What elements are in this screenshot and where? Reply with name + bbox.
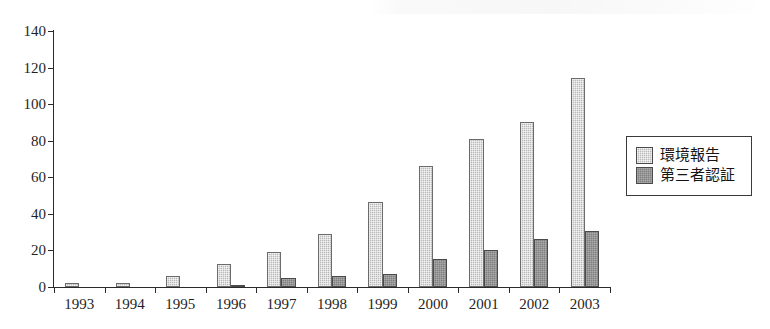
legend-swatch-icon-0 — [636, 147, 653, 164]
x-axis-label-1994: 1994 — [115, 297, 145, 312]
y-axis-tick-label: 100 — [24, 97, 47, 112]
y-axis-tick-label: 80 — [31, 133, 46, 148]
chart-legend: 環境報告 第三者認証 — [626, 136, 752, 196]
x-axis-tick-mark — [357, 287, 358, 293]
bar-2002-series-0 — [520, 122, 534, 287]
x-axis-label-1999: 1999 — [368, 297, 398, 312]
x-axis-tick-mark — [54, 287, 55, 293]
plot-area: 0204060801001201401993199419951996199719… — [54, 31, 610, 287]
y-axis-tick-label: 20 — [31, 243, 46, 258]
bar-2001-series-1 — [484, 250, 498, 287]
bar-1998-series-1 — [332, 276, 346, 287]
y-axis-tick-label: 40 — [31, 206, 46, 221]
y-axis-tick-label: 0 — [39, 280, 47, 295]
x-axis-label-2001: 2001 — [469, 297, 499, 312]
bar-1993-series-0 — [65, 283, 79, 287]
legend-label-1: 第三者認証 — [660, 167, 735, 184]
x-axis-label-1996: 1996 — [216, 297, 246, 312]
x-axis-tick-mark — [206, 287, 207, 293]
bar-1998-series-0 — [318, 234, 332, 287]
x-axis-label-1993: 1993 — [64, 297, 94, 312]
x-axis-tick-mark — [559, 287, 560, 293]
bar-1997-series-1 — [281, 278, 295, 287]
x-axis-label-1997: 1997 — [266, 297, 296, 312]
legend-swatch-icon-1 — [636, 167, 653, 184]
y-axis-tick-mark — [48, 250, 54, 251]
x-axis-line — [53, 287, 611, 288]
y-axis-tick-mark — [48, 104, 54, 105]
legend-label-0: 環境報告 — [660, 147, 720, 164]
x-axis-label-1998: 1998 — [317, 297, 347, 312]
x-axis-label-2002: 2002 — [519, 297, 549, 312]
bar-2002-series-1 — [534, 239, 548, 287]
y-axis-tick-label: 60 — [31, 170, 46, 185]
bar-2001-series-0 — [469, 139, 483, 287]
legend-entry-1: 第三者認証 — [636, 167, 742, 184]
x-axis-tick-mark — [509, 287, 510, 293]
x-axis-tick-mark — [256, 287, 257, 293]
x-axis-tick-mark — [105, 287, 106, 293]
y-axis-tick-mark — [48, 177, 54, 178]
bar-2000-series-0 — [419, 166, 433, 287]
x-axis-tick-mark — [458, 287, 459, 293]
x-axis-tick-mark — [408, 287, 409, 293]
bar-2003-series-1 — [585, 231, 599, 287]
bar-1999-series-1 — [383, 274, 397, 287]
x-axis-label-2000: 2000 — [418, 297, 448, 312]
bar-1996-series-0 — [217, 264, 231, 287]
bar-1999-series-0 — [368, 202, 382, 287]
bar-1997-series-0 — [267, 252, 281, 287]
bar-2000-series-1 — [433, 259, 447, 287]
bar-chart: 0204060801001201401993199419951996199719… — [0, 0, 770, 329]
bar-2003-series-0 — [571, 78, 585, 287]
bar-1995-series-0 — [166, 276, 180, 287]
x-axis-tick-mark — [610, 287, 611, 293]
legend-entry-0: 環境報告 — [636, 147, 742, 164]
bar-1996-series-1 — [231, 285, 245, 287]
y-axis-tick-mark — [48, 31, 54, 32]
x-axis-tick-mark — [307, 287, 308, 293]
x-axis-label-2003: 2003 — [570, 297, 600, 312]
x-axis-label-1995: 1995 — [165, 297, 195, 312]
y-axis-tick-label: 140 — [24, 24, 47, 39]
x-axis-tick-mark — [155, 287, 156, 293]
y-axis-tick-mark — [48, 141, 54, 142]
y-axis-tick-mark — [48, 68, 54, 69]
scan-noise-overlay — [0, 0, 770, 14]
y-axis-tick-label: 120 — [24, 60, 47, 75]
y-axis-tick-mark — [48, 214, 54, 215]
bar-1994-series-0 — [116, 283, 130, 287]
